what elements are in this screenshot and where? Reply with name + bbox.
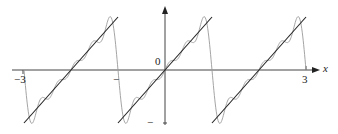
sawtooth-fourier-plot — [0, 0, 338, 134]
x-axis-arrow-icon — [312, 67, 320, 73]
x-tick-label-neg3: −3 — [14, 74, 26, 85]
y-axis-arrow-icon — [162, 6, 168, 14]
y-tick-label-neg1: − — [147, 117, 153, 128]
origin-label: 0 — [155, 56, 161, 67]
x-tick-label-3: 3 — [302, 74, 308, 85]
x-tick-label-neg1: − — [113, 74, 119, 85]
x-axis-label: x — [323, 63, 328, 74]
axes — [12, 6, 320, 125]
